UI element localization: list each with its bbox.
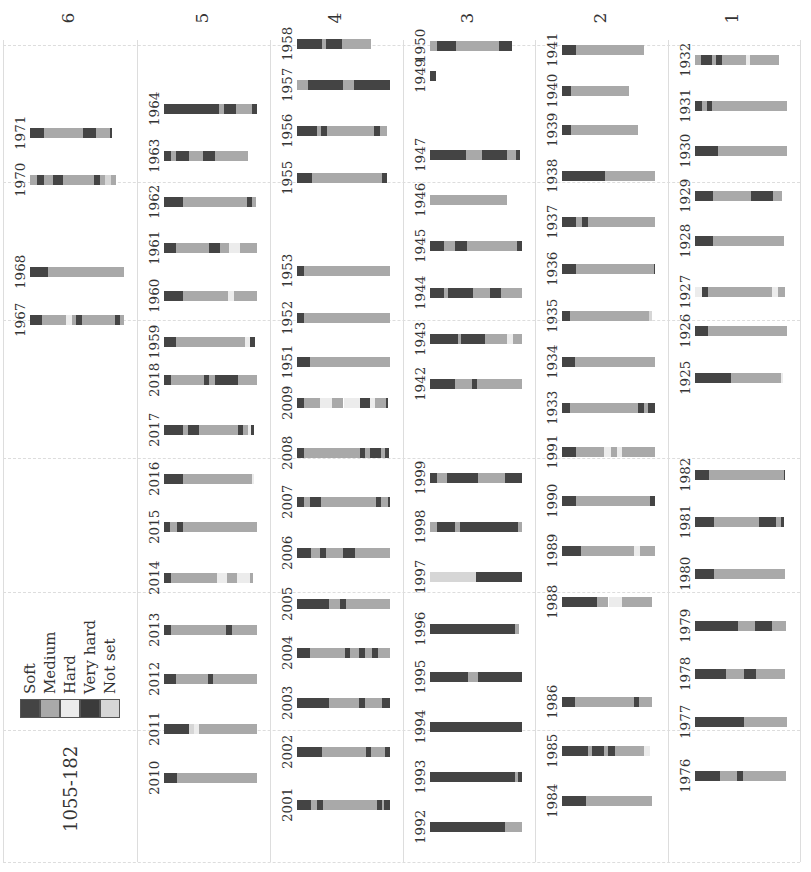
grid-vline bbox=[137, 40, 138, 862]
segment-soft bbox=[608, 746, 615, 756]
segment-soft bbox=[343, 548, 355, 558]
segment-medium bbox=[63, 175, 94, 185]
segment-soft bbox=[499, 41, 512, 51]
year-bar-1986 bbox=[562, 697, 655, 707]
segment-medium bbox=[455, 379, 472, 389]
segment-medium bbox=[726, 669, 743, 679]
segment-soft bbox=[209, 243, 220, 253]
segment-soft bbox=[297, 548, 311, 558]
segment-soft bbox=[30, 128, 44, 138]
year-bar-1945 bbox=[430, 241, 522, 251]
segment-medium bbox=[778, 287, 785, 297]
segment-medium bbox=[750, 55, 779, 65]
segment-soft bbox=[430, 624, 515, 634]
segment-soft bbox=[562, 86, 571, 96]
segment-soft bbox=[695, 236, 713, 246]
year-label: 1964 bbox=[147, 92, 161, 126]
segment-medium bbox=[515, 624, 520, 634]
segment-medium bbox=[329, 599, 340, 609]
segment-soft bbox=[695, 373, 731, 383]
segment-soft bbox=[297, 599, 329, 609]
segment-soft bbox=[437, 41, 455, 51]
year-bar-1956 bbox=[297, 126, 390, 136]
year-label: 1971 bbox=[13, 116, 27, 150]
segment-medium bbox=[332, 398, 343, 408]
chart-title: 1055-182 bbox=[60, 746, 81, 832]
year-bar-2016 bbox=[164, 474, 257, 484]
year-bar-2009 bbox=[297, 398, 390, 408]
segment-medium bbox=[576, 45, 644, 55]
segment-soft bbox=[695, 101, 702, 111]
grid-vline bbox=[535, 40, 536, 862]
year-bar-1937 bbox=[562, 217, 655, 227]
year-bar-1950 bbox=[430, 41, 522, 51]
segment-medium bbox=[311, 548, 320, 558]
year-label: 1934 bbox=[545, 345, 559, 379]
segment-soft bbox=[582, 217, 589, 227]
segment-medium bbox=[213, 674, 257, 684]
segment-soft bbox=[562, 447, 576, 457]
segment-soft bbox=[490, 288, 501, 298]
year-bar-2018 bbox=[164, 375, 257, 385]
segment-soft bbox=[164, 474, 183, 484]
year-bar-1963 bbox=[164, 151, 257, 161]
segment-soft bbox=[297, 747, 322, 757]
year-label: 1978 bbox=[678, 657, 692, 691]
segment-medium bbox=[720, 771, 737, 781]
segment-medium bbox=[343, 80, 354, 90]
segment-soft bbox=[562, 403, 570, 413]
segment-medium bbox=[227, 573, 237, 583]
segment-medium bbox=[501, 288, 522, 298]
year-label: 1946 bbox=[413, 183, 427, 217]
segment-medium bbox=[713, 191, 751, 201]
year-label: 1928 bbox=[678, 224, 692, 258]
segment-medium bbox=[252, 197, 256, 207]
segment-medium bbox=[209, 375, 216, 385]
year-bar-1997 bbox=[430, 572, 522, 582]
segment-soft bbox=[430, 288, 444, 298]
year-label: 1956 bbox=[280, 114, 294, 148]
segment-soft bbox=[516, 150, 520, 160]
segment-medium bbox=[468, 672, 478, 682]
year-label: 1932 bbox=[678, 43, 692, 77]
segment-medium bbox=[713, 236, 784, 246]
segment-soft bbox=[701, 55, 713, 65]
segment-medium bbox=[622, 447, 655, 457]
segment-soft bbox=[110, 128, 112, 138]
segment-medium bbox=[708, 326, 787, 336]
year-bar-1934 bbox=[562, 357, 655, 367]
segment-medium bbox=[310, 648, 345, 658]
segment-notset bbox=[649, 311, 652, 321]
segment-medium bbox=[605, 171, 655, 181]
segment-medium bbox=[597, 597, 608, 607]
year-bar-1985 bbox=[562, 746, 655, 756]
segment-soft bbox=[751, 191, 773, 201]
year-bar-1992 bbox=[430, 822, 522, 832]
segment-medium bbox=[304, 398, 320, 408]
segment-medium bbox=[250, 573, 253, 583]
segment-medium bbox=[183, 522, 257, 532]
segment-medium bbox=[518, 522, 522, 532]
segment-medium bbox=[234, 291, 257, 301]
year-label: 2006 bbox=[280, 536, 294, 570]
segment-medium bbox=[576, 496, 650, 506]
year-label: 1988 bbox=[545, 585, 559, 619]
year-label: 1930 bbox=[678, 134, 692, 168]
segment-soft bbox=[386, 398, 388, 408]
segment-soft bbox=[518, 772, 522, 782]
segment-soft bbox=[382, 173, 388, 183]
year-bar-2014 bbox=[164, 573, 257, 583]
segment-medium bbox=[477, 379, 522, 389]
segment-soft bbox=[476, 572, 522, 582]
segment-soft bbox=[203, 151, 215, 161]
segment-soft bbox=[164, 243, 176, 253]
segment-medium bbox=[304, 448, 360, 458]
year-label: 1979 bbox=[678, 609, 692, 643]
segment-soft bbox=[562, 45, 576, 55]
column-header-4: 4 bbox=[325, 3, 349, 33]
year-label: 1927 bbox=[678, 275, 692, 309]
year-label: 1994 bbox=[413, 710, 427, 744]
segment-hard bbox=[695, 287, 702, 297]
segment-medium bbox=[238, 375, 257, 385]
grid-vline bbox=[270, 40, 271, 862]
